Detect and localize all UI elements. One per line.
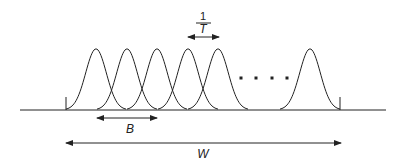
pulse-4 [158,49,218,109]
ellipsis-dot [271,77,274,80]
pulse-6 [280,49,340,109]
bandwidth-label: B [126,122,134,136]
ellipsis-dot [240,77,243,80]
pulse-3 [127,49,187,109]
subcarrier-pulses [66,49,340,109]
ellipsis-dot [255,77,258,80]
total-bandwidth-label: W [197,147,210,161]
pulse-5 [188,49,248,109]
ellipsis-dot [286,77,289,80]
spacing-numerator: 1 [200,10,206,22]
ellipsis-dots [240,77,289,80]
pulse-2 [97,49,157,109]
spacing-denominator: T [199,22,208,36]
pulse-1 [66,49,126,109]
spectrum-diagram: 1 T B W [0,0,405,165]
